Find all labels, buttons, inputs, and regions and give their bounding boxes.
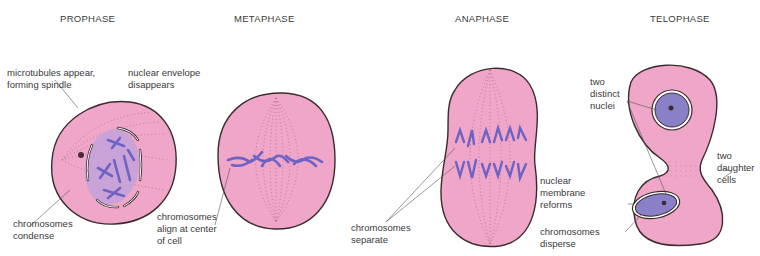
label-chromosomes-align: chromosomes align at center of cell <box>157 211 217 247</box>
anaphase-cell <box>441 68 537 246</box>
label-two-distinct-nuclei: two distinct nuclei <box>590 76 620 112</box>
telophase-cells <box>629 65 723 245</box>
label-chromosomes-separate: chromosomes separate <box>351 222 411 246</box>
mitosis-illustration <box>0 0 760 256</box>
prophase-cell <box>52 102 177 225</box>
label-chromosomes-condense: chromosomes condense <box>13 218 73 242</box>
phase-title-telophase: TELOPHASE <box>650 13 710 24</box>
label-two-daughter-cells: two daughter cells <box>717 150 755 186</box>
phase-title-anaphase: ANAPHASE <box>455 13 509 24</box>
phase-title-prophase: PROPHASE <box>60 13 115 24</box>
metaphase-cell <box>218 93 335 229</box>
label-chromosomes-disperse: chromosomes disperse <box>540 226 600 250</box>
label-nuclear-membrane-reforms: nuclear membrane reforms <box>540 175 585 211</box>
label-nuclear-envelope-disappears: nuclear envelope disappears <box>128 67 200 91</box>
phase-title-metaphase: METAPHASE <box>234 13 295 24</box>
label-microtubules-appear: microtubules appear, forming spindle <box>7 67 95 91</box>
